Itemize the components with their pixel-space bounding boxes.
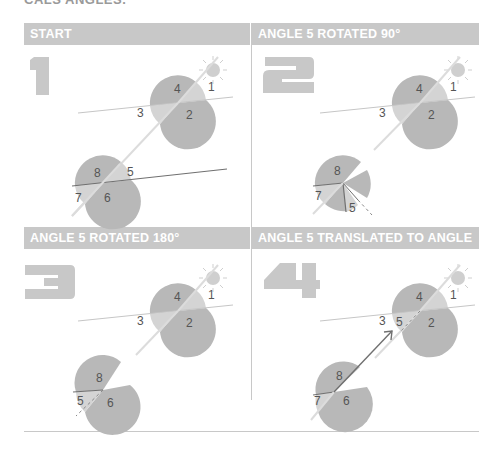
svg-text:8: 8 (96, 371, 103, 385)
svg-text:7: 7 (314, 394, 321, 408)
svg-text:5: 5 (349, 201, 356, 215)
svg-text:8: 8 (334, 164, 341, 178)
step-number-1 (30, 57, 49, 95)
step-number-4 (264, 263, 320, 298)
svg-text:6: 6 (104, 191, 111, 205)
diagram-canvas: 4 1 3 2 8 5 7 6 (0, 0, 497, 453)
svg-text:5: 5 (396, 315, 403, 329)
svg-text:7: 7 (315, 189, 322, 203)
svg-text:8: 8 (336, 369, 343, 383)
svg-text:6: 6 (343, 394, 350, 408)
svg-text:8: 8 (94, 166, 101, 180)
svg-text:6: 6 (107, 396, 114, 410)
step-number-2 (263, 57, 314, 93)
svg-text:5: 5 (127, 165, 134, 179)
step-number-3 (25, 265, 75, 299)
panel-2-diagram: 8 7 5 (313, 56, 475, 215)
svg-text:5: 5 (77, 394, 84, 408)
svg-text:7: 7 (75, 191, 82, 205)
panel-1-diagram: 8 5 7 6 (72, 56, 233, 229)
panel-3-diagram: 8 5 6 (73, 264, 233, 435)
panel-4-diagram: 8 7 6 5 (311, 264, 475, 432)
